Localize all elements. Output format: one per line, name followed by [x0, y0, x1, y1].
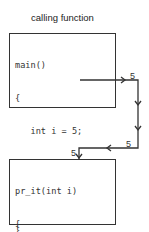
value-label-outgoing: 5: [130, 71, 135, 81]
value-label-entry: 5: [71, 148, 76, 158]
data-flow-arrow: [0, 0, 149, 232]
value-label-return: 5: [126, 139, 131, 149]
